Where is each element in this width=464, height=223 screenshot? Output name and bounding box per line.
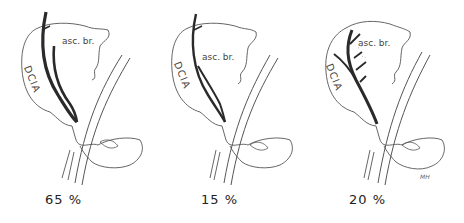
ascending-branch-label-3: asc. br. bbox=[358, 38, 390, 48]
pelvis-illustration-3 bbox=[304, 0, 459, 223]
artist-signature: MH bbox=[420, 173, 430, 180]
ascending-branch-label-1: asc. br. bbox=[62, 36, 94, 46]
pelvis-illustration-2 bbox=[150, 0, 305, 223]
variant-panel-1: asc. br. DCIA 65 % bbox=[0, 0, 155, 223]
variant-panel-3: asc. br. DCIA 20 % MH bbox=[304, 0, 459, 223]
percentage-label-1: 65 % bbox=[0, 192, 141, 207]
variant-panel-2: asc. br. DCIA 15 % bbox=[150, 0, 305, 223]
percentage-label-3: 20 % bbox=[290, 192, 445, 207]
ascending-branch-label-2: asc. br. bbox=[202, 52, 234, 62]
percentage-label-2: 15 % bbox=[142, 192, 297, 207]
pelvis-illustration-1 bbox=[0, 0, 155, 223]
